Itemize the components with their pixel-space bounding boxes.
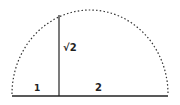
semicircle-arc xyxy=(12,10,168,94)
height-label: √2 xyxy=(63,42,77,53)
geometric-mean-diagram: 1 2 √2 xyxy=(0,0,180,105)
segment-label-1: 1 xyxy=(34,83,40,93)
segment-label-2: 2 xyxy=(95,82,102,93)
